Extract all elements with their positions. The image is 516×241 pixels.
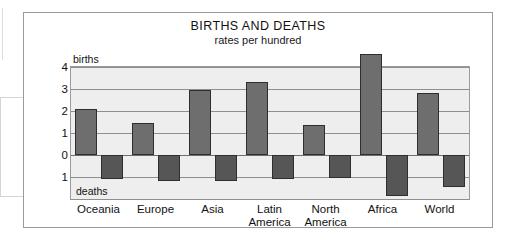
- figure-frame: BIRTHS AND DEATHS rates per hundred 4321…: [23, 12, 493, 228]
- bar-births: [75, 109, 97, 155]
- bar-deaths: [215, 155, 237, 181]
- category-label: LatinAmerica: [241, 203, 298, 229]
- bar-births: [417, 93, 439, 155]
- bar-deaths: [386, 155, 408, 196]
- category-label-line1: Latin: [257, 203, 282, 215]
- deaths-axis-caption: deaths: [76, 186, 108, 197]
- figure-page: BIRTHS AND DEATHS rates per hundred 4321…: [0, 0, 516, 241]
- gridline: [71, 89, 469, 90]
- y-axis-tick-labels: 432101: [46, 66, 68, 200]
- category-label-line1: North: [311, 203, 339, 215]
- category-label-line1: Europe: [137, 203, 174, 215]
- gridline: [71, 67, 469, 68]
- y-axis-tick: 2: [50, 105, 68, 117]
- category-label-line1: Africa: [368, 203, 397, 215]
- bar-births: [132, 123, 154, 155]
- gridline: [71, 199, 469, 200]
- bar-deaths: [272, 155, 294, 179]
- chart-title-block: BIRTHS AND DEATHS rates per hundred: [24, 19, 492, 47]
- gridline-zero: [71, 155, 469, 156]
- scan-edge-artifact-top: [2, 8, 13, 60]
- y-axis-tick: 4: [50, 61, 68, 73]
- category-label-line2: America: [297, 216, 354, 229]
- category-axis-labels: OceaniaEuropeAsiaLatinAmericaNorthAmeric…: [70, 203, 470, 237]
- y-axis-tick: 1: [50, 171, 68, 183]
- chart-title: BIRTHS AND DEATHS: [24, 19, 492, 33]
- bar-deaths: [329, 155, 351, 178]
- births-axis-caption: births: [73, 54, 99, 65]
- category-label-line1: Oceania: [77, 203, 120, 215]
- category-label: Asia: [184, 203, 241, 216]
- scan-edge-artifact-box: [0, 97, 25, 197]
- bar-births: [246, 82, 268, 155]
- category-label-line1: Asia: [201, 203, 223, 215]
- y-axis-tick: 0: [50, 149, 68, 161]
- bar-deaths: [101, 155, 123, 179]
- y-axis-tick: 1: [50, 127, 68, 139]
- bar-births: [360, 54, 382, 155]
- category-label: NorthAmerica: [297, 203, 354, 229]
- category-label: World: [411, 203, 468, 216]
- bar-births: [189, 90, 211, 155]
- gridline: [71, 111, 469, 112]
- plot-area: deaths: [70, 66, 470, 200]
- bar-births: [303, 125, 325, 155]
- gridline: [71, 133, 469, 134]
- gridline: [71, 177, 469, 178]
- category-label: Europe: [127, 203, 184, 216]
- category-label-line1: World: [425, 203, 455, 215]
- chart-subtitle: rates per hundred: [24, 34, 492, 47]
- category-label: Africa: [354, 203, 411, 216]
- category-label: Oceania: [70, 203, 127, 216]
- bar-deaths: [443, 155, 465, 187]
- y-axis-tick: 3: [50, 83, 68, 95]
- bar-deaths: [158, 155, 180, 181]
- category-label-line2: America: [241, 216, 298, 229]
